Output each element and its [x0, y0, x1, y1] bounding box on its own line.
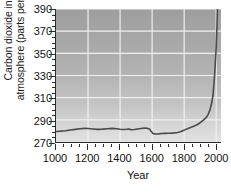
x-tick-major [87, 144, 88, 150]
x-tick-minor [71, 144, 72, 147]
x-tick-minor [192, 144, 193, 147]
series-line [56, 9, 217, 134]
y-axis-tick-labels: 270290310330350370390 [20, 9, 52, 143]
x-tick-major [119, 144, 120, 150]
x-tick-major [152, 144, 153, 150]
x-tick-minor [79, 144, 80, 147]
x-tick-major [216, 144, 217, 150]
x-tick-label: 1600 [139, 152, 163, 164]
x-tick-label: 2000 [204, 152, 228, 164]
x-tick-minor [111, 144, 112, 147]
x-tick-label: 1200 [75, 152, 99, 164]
x-tick-minor [144, 144, 145, 147]
x-tick-major [55, 144, 56, 150]
x-tick-major [184, 144, 185, 150]
x-tick-minor [95, 144, 96, 147]
x-tick-label: 1400 [107, 152, 131, 164]
y-axis-title-line-1: Carbon dioxide in the [2, 0, 14, 81]
x-tick-minor [168, 144, 169, 147]
x-tick-minor [63, 144, 64, 147]
x-axis-title: Year [55, 169, 221, 181]
x-tick-label: 1800 [172, 152, 196, 164]
x-tick-minor [176, 144, 177, 147]
x-tick-minor [208, 144, 209, 147]
x-tick-minor [160, 144, 161, 147]
co2-line-chart: Carbon dioxide in the atmosphere (parts … [0, 0, 231, 195]
data-series-co2 [56, 9, 221, 142]
x-tick-label: 1000 [43, 152, 67, 164]
x-tick-minor [128, 144, 129, 147]
x-axis-tick-labels: 100012001400160018002000 [55, 152, 221, 166]
x-tick-minor [103, 144, 104, 147]
x-tick-minor [136, 144, 137, 147]
x-axis-ticks [55, 144, 221, 150]
x-tick-minor [200, 144, 201, 147]
plot-area [55, 9, 221, 143]
